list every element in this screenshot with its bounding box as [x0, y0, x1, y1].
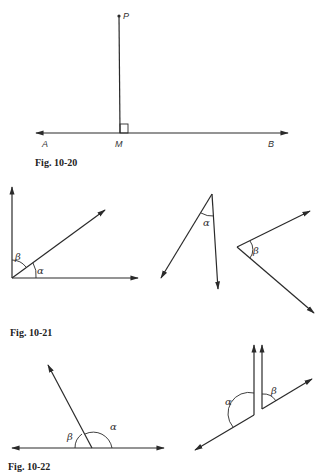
label-alpha-4: α	[225, 396, 232, 407]
fig-10-22-diagram: β α α β Fig. 10-22	[8, 345, 312, 472]
fig-10-21-diagram: β α α β Fig. 10-21	[10, 187, 314, 338]
label-b: B	[268, 139, 274, 149]
label-beta-2: β	[252, 245, 259, 256]
label-alpha: α	[37, 265, 44, 276]
label-p: P	[123, 11, 129, 21]
label-alpha-3: α	[110, 421, 117, 432]
caption-fig-10-20: Fig. 10-20	[35, 157, 77, 168]
segment-pm	[119, 16, 120, 133]
label-beta: β	[14, 251, 21, 262]
label-a: A	[41, 139, 48, 149]
fig-10-20-diagram: P M A B Fig. 10-20	[35, 11, 288, 168]
caption-fig-10-21: Fig. 10-21	[10, 327, 52, 338]
label-beta-3: β	[66, 431, 73, 442]
figure-canvas: P M A B Fig. 10-20 β α α β Fig. 10-21 β …	[0, 0, 319, 472]
right-angle-mark	[120, 124, 128, 133]
point-p	[117, 14, 120, 17]
label-alpha-2: α	[203, 217, 210, 228]
caption-fig-10-22: Fig. 10-22	[8, 461, 50, 472]
label-m: M	[115, 139, 123, 149]
label-beta-4: β	[270, 385, 277, 396]
